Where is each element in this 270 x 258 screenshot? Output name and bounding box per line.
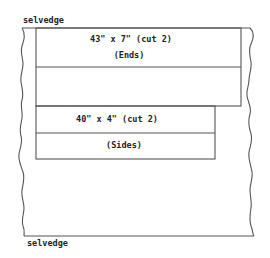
fabric-right-torn-edge (247, 28, 254, 236)
fabric-left-torn-edge (19, 28, 25, 236)
fabric-cutting-diagram: selvedge 43" x 7" (cut 2) (Ends) 40" x 4… (0, 0, 270, 258)
bottom-selvedge-label: selvedge (27, 238, 68, 248)
sides-dimension-label: 40" x 4" (cut 2) (76, 114, 158, 124)
ends-part-label: (Ends) (114, 50, 145, 60)
sides-part-label: (Sides) (106, 140, 142, 150)
top-selvedge-label: selvedge (23, 15, 64, 25)
ends-dimension-label: 43" x 7" (cut 2) (90, 34, 172, 44)
